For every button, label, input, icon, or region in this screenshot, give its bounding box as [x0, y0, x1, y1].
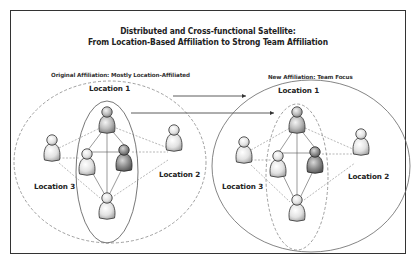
left-location3-label: Location 3 — [34, 182, 75, 191]
person-icon — [99, 107, 115, 133]
person-icon — [79, 149, 95, 175]
right-location3-label: Location 3 — [222, 182, 263, 191]
person-icon — [166, 125, 182, 151]
person-icon — [353, 129, 369, 155]
right-location1-label: Location 1 — [278, 86, 319, 95]
person-icon — [289, 195, 305, 221]
person-icon — [270, 151, 286, 177]
person-icon — [307, 147, 323, 173]
person-icon — [289, 107, 305, 133]
person-icon — [116, 145, 132, 171]
right-panel — [212, 80, 410, 252]
person-icon — [99, 193, 115, 219]
transition-arrows — [131, 96, 274, 113]
person-icon — [44, 135, 60, 161]
person-icon — [236, 137, 252, 163]
left-location1-label: Location 1 — [89, 84, 130, 93]
diagram-canvas — [0, 0, 416, 268]
left-location-links — [59, 128, 168, 198]
right-location2-label: Location 2 — [348, 172, 389, 181]
left-location2-label: Location 2 — [159, 170, 200, 179]
left-panel — [14, 81, 206, 243]
